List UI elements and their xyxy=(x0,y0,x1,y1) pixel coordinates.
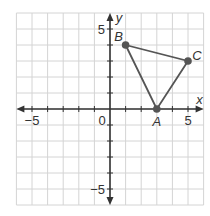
y-tick-label: −5 xyxy=(90,182,105,197)
x-axis-left-arrow-icon xyxy=(16,106,24,113)
y-axis-label: y xyxy=(115,10,124,25)
y-axis-up-arrow-icon xyxy=(107,13,114,21)
x-tick-label: −5 xyxy=(25,113,40,128)
point-b xyxy=(122,41,130,49)
y-tick-label: 5 xyxy=(98,22,105,37)
point-c xyxy=(184,57,192,65)
y-axis-down-arrow-icon xyxy=(107,197,114,205)
x-tick-label: 0 xyxy=(98,113,105,128)
point-label-b: B xyxy=(114,29,123,44)
point-a xyxy=(153,105,161,113)
x-tick-label: 5 xyxy=(184,113,191,128)
point-label-c: C xyxy=(192,48,202,63)
x-axis-label: x xyxy=(195,92,203,107)
point-label-a: A xyxy=(151,114,161,129)
coordinate-plane: −5055−5xyABC xyxy=(0,0,210,216)
